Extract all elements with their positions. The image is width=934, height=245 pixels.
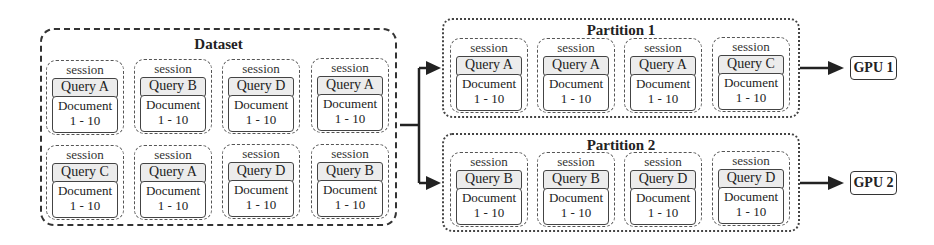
arrow-to-partition-1-icon <box>426 61 441 75</box>
connector-arrows <box>0 0 934 245</box>
arrow-to-gpu-1-icon <box>828 61 844 75</box>
arrow-to-partition-2-icon <box>426 176 441 190</box>
arrow-to-gpu-2-icon <box>828 176 844 190</box>
